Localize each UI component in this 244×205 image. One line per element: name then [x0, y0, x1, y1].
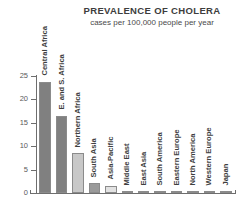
x-axis-line: [30, 193, 236, 194]
bar-category-label: South Asia: [91, 138, 99, 177]
bar[interactable]: [72, 153, 84, 193]
bar-category-label: E. and S. Africa: [58, 54, 66, 109]
bar-category-label: Eastern Europe: [173, 129, 181, 185]
bar-group: North America: [185, 76, 201, 193]
bar-category-label: Western Europe: [206, 128, 214, 186]
y-axis-tick: [31, 76, 36, 77]
bar[interactable]: [171, 191, 183, 193]
bar-group: East Asia: [136, 76, 152, 193]
y-axis-tick-label: 20: [20, 95, 28, 103]
y-axis-tick-label: 10: [20, 142, 28, 150]
bar[interactable]: [138, 191, 150, 193]
bar-category-label: Central Africa: [41, 26, 49, 76]
y-axis-tick: [31, 193, 36, 194]
bar-group: Western Europe: [201, 76, 217, 193]
bar-group: Middle East: [119, 76, 135, 193]
chart-subtitle: cases per 100,000 people per year: [62, 17, 242, 28]
bar-category-label: Middle East: [123, 143, 131, 185]
chart-title-block: PREVALENCE OF CHOLERA cases per 100,000 …: [62, 5, 242, 28]
bar[interactable]: [204, 191, 216, 193]
bar[interactable]: [220, 191, 232, 193]
bar[interactable]: [89, 183, 101, 193]
bar[interactable]: [105, 186, 117, 193]
y-axis-tick: [31, 146, 36, 147]
bar[interactable]: [56, 116, 68, 193]
bar-group: Northern Africa: [70, 76, 86, 193]
bar-group: Asia-Pacific: [103, 76, 119, 193]
bar-category-label: North America: [189, 134, 197, 186]
y-axis-tick: [31, 123, 36, 124]
bar-group: Central Africa: [37, 76, 53, 193]
bar-group: Japan: [218, 76, 234, 193]
cholera-prevalence-chart: PREVALENCE OF CHOLERA cases per 100,000 …: [0, 0, 244, 205]
x-axis-right-cap: [235, 190, 236, 194]
chart-title: PREVALENCE OF CHOLERA: [62, 5, 242, 16]
y-axis-tick-label: 15: [20, 119, 28, 127]
bar-category-label: Northern Africa: [74, 92, 82, 147]
bar-group: E. and S. Africa: [53, 76, 69, 193]
bar-category-label: Japan: [222, 164, 230, 186]
bar[interactable]: [187, 191, 199, 193]
bar-category-label: East Asia: [140, 152, 148, 186]
bar-group: South America: [152, 76, 168, 193]
bar-group: South Asia: [86, 76, 102, 193]
y-axis-tick: [31, 99, 36, 100]
bar[interactable]: [39, 82, 51, 193]
bar-category-label: Asia-Pacific: [107, 136, 115, 179]
bar[interactable]: [122, 191, 134, 193]
y-axis-tick: [31, 170, 36, 171]
bar-series: Central AfricaE. and S. AfricaNorthern A…: [37, 76, 234, 193]
y-axis-tick-label: 5: [24, 166, 28, 174]
bar-category-label: South America: [156, 132, 164, 185]
y-axis-tick-label: 25: [20, 72, 28, 80]
bar-group: Eastern Europe: [168, 76, 184, 193]
bar[interactable]: [154, 191, 166, 193]
y-axis-tick-label: 0: [24, 189, 28, 197]
